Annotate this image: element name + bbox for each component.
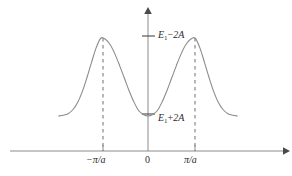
- label-band-maximum-term: 2A: [173, 29, 184, 40]
- label-band-minimum-term: 2A: [173, 112, 184, 123]
- x-axis-arrow-icon: [283, 147, 290, 155]
- x-tick-label-zero: 0: [145, 155, 150, 165]
- x-tick-label-positive-pi-over-a: π/a: [184, 155, 197, 165]
- y-axis-arrow-icon: [144, 7, 152, 14]
- label-band-maximum: E1−2A: [158, 30, 184, 42]
- energy-band-figure: E1−2A E1+2A −π/a 0 π/a: [0, 0, 292, 176]
- energy-band-plot: [0, 0, 292, 176]
- label-band-minimum: E1+2A: [158, 113, 184, 125]
- x-tick-label-negative-pi-over-a: −π/a: [86, 155, 106, 165]
